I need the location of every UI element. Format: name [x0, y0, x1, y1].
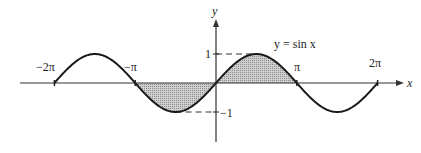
x-tick-label-neg-pi: −π	[124, 60, 137, 74]
x-tick-label-neg-2pi: −2π	[36, 60, 55, 74]
curve-label: y = sin x	[274, 37, 316, 51]
y-tick-label-neg-1: −1	[220, 106, 233, 120]
y-axis-arrow-icon	[213, 19, 219, 27]
sine-graph: x y y = sin x −2π −π π 2π 1 −1	[0, 0, 421, 153]
x-axis-arrow-icon	[396, 80, 404, 86]
x-tick-label-2pi: 2π	[369, 56, 381, 70]
x-axis-label: x	[406, 76, 413, 90]
y-tick-label-1: 1	[205, 47, 211, 61]
x-tick-label-pi: π	[294, 60, 300, 74]
y-axis-label: y	[211, 4, 218, 18]
